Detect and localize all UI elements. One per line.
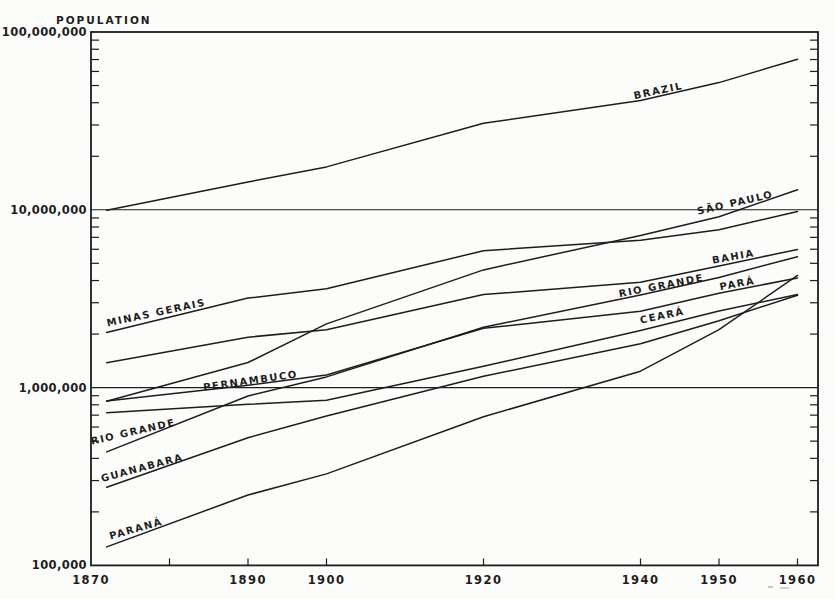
y-axis-tick-label-10000000: 10,000,000 <box>10 203 87 217</box>
line-bahia <box>107 249 798 362</box>
x-axis-tick-label-1950: 1950 <box>700 573 738 587</box>
population-growth-chart: 100,000,00010,000,0001,000,000100,000POP… <box>0 0 835 599</box>
line-label-parana: PARANÁ <box>108 515 164 542</box>
x-axis-tick-label-1960: 1960 <box>779 573 817 587</box>
line-rio-grande <box>107 257 798 452</box>
line-ceara <box>107 295 798 413</box>
y-axis-tick-label-100000: 100,000 <box>32 558 87 572</box>
x-axis-tick-label-1900: 1900 <box>308 573 346 587</box>
line-minas-gerais <box>107 211 798 332</box>
line-label-pernambuco: PERNAMBUCO <box>202 368 298 392</box>
scan-artifact <box>780 587 789 589</box>
line-label-ceara: CEARÁ <box>639 305 686 326</box>
line-label-brazil: BRAZIL <box>633 80 684 101</box>
line-label-guanabara: GUANABARA <box>100 451 185 484</box>
y-axis-title: POPULATION <box>56 14 152 26</box>
scan-artifact <box>768 586 773 588</box>
y-axis-tick-label-100000000: 100,000,000 <box>2 25 87 39</box>
scanned-chart-page: 100,000,00010,000,0001,000,000100,000POP… <box>0 0 835 599</box>
x-axis-tick-label-1890: 1890 <box>229 573 267 587</box>
x-axis-tick-label-1940: 1940 <box>622 573 660 587</box>
line-brazil <box>107 59 798 210</box>
line-label-rio-grande-right: RIO GRANDE <box>618 272 705 299</box>
y-axis-tick-label-1000000: 1,000,000 <box>19 381 87 395</box>
x-axis-tick-label-1920: 1920 <box>465 573 503 587</box>
line-sao-paulo <box>107 190 798 402</box>
x-axis-tick-label-1870: 1870 <box>72 573 110 587</box>
